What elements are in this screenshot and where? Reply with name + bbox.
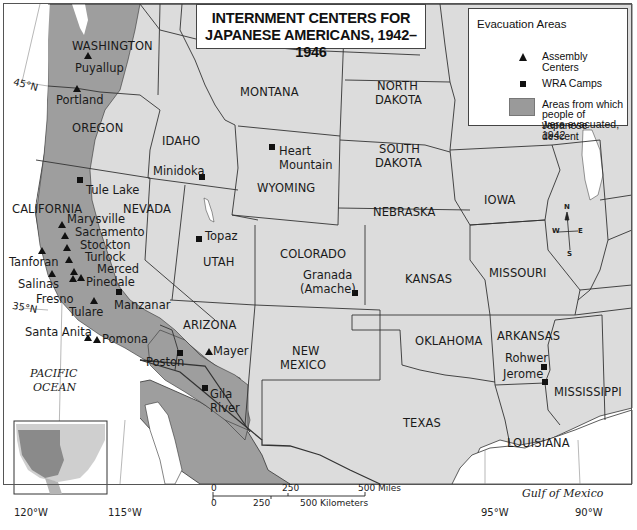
scale-miles-250: 250 [282,483,299,493]
label-merced: Merced [97,263,139,275]
square-icon [77,177,83,183]
state-nevada: NEVADA [123,203,171,215]
legend-area-line-3: were evacuated, 1942 [542,119,627,141]
state-arkansas: ARKANSAS [497,330,560,342]
scale-km-500: 500 Kilometers [300,498,368,508]
state-new-mexico-1: NEW [292,345,320,357]
label-gila-river-2: River [210,402,240,414]
label-gila-river-1: Gila [210,388,232,400]
label-fresno: Fresno [36,293,74,305]
label-portland: Portland [56,94,104,106]
title-line-2: JAPANESE AMERICANS, 1942–1946 [197,27,425,61]
label-heart-mountain-2: Mountain [279,159,333,171]
state-north-dakota-2: DAKOTA [375,94,422,106]
state-missouri: MISSOURI [489,267,547,279]
state-mississippi: MISSISSIPPI [554,386,622,398]
label-rohwer: Rohwer [505,352,548,364]
state-south-dakota-2: DAKOTA [375,157,422,169]
square-icon [520,81,526,87]
label-tanforan: Tanforan [9,256,59,268]
title-box: INTERNMENT CENTERS FOR JAPANESE AMERICAN… [196,4,426,49]
state-texas: TEXAS [403,417,441,429]
label-heart-mountain-1: Heart [279,145,311,157]
label-tulare: Tulare [69,306,103,318]
state-nebraska: NEBRASKA [373,206,435,218]
square-icon [116,289,122,295]
label-pinedale: Pinedale [86,276,135,288]
legend-assembly-centers: Assembly Centers [542,51,627,73]
label-salinas: Salinas [18,278,59,290]
state-wyoming: WYOMING [257,182,315,194]
compass-e: E [578,227,583,235]
scale-km-250: 250 [253,498,270,508]
label-tule-lake: Tule Lake [86,184,139,196]
label-pomona: Pomona [102,333,148,345]
label-pacific-2: OCEAN [33,382,76,394]
label-lon-95: 95°W [481,508,509,519]
scale-miles-0: 0 [211,483,217,493]
shaded-area-swatch [509,98,535,116]
label-sacramento: Sacramento [75,226,145,238]
state-colorado: COLORADO [280,248,346,260]
label-minidoka: Minidoka [153,165,204,177]
compass-w: W [552,227,560,235]
scale-km-0: 0 [211,498,217,508]
legend-heading: Evacuation Areas [477,18,567,30]
label-pacific-1: PACIFIC [30,368,78,380]
state-iowa: IOWA [484,194,515,206]
label-granada-1: Granada [303,269,352,281]
state-arizona: ARIZONA [183,319,236,331]
legend: Evacuation Areas Assembly Centers WRA Ca… [468,8,628,126]
inset-map [14,421,107,494]
label-lon-120: 120°W [14,508,48,519]
state-idaho: IDAHO [162,135,200,147]
scale-miles-500: 500 Miles [358,483,401,493]
label-manzanar: Manzanar [114,299,170,311]
label-gulf-of-mexico: Gulf of Mexico [522,488,603,500]
state-washington: WASHINGTON [72,40,153,52]
label-mayer: Mayer [213,345,249,357]
state-utah: UTAH [203,256,234,268]
label-lon-115: 115°W [108,508,142,519]
state-oregon: OREGON [72,122,123,134]
label-topaz: Topaz [205,230,238,242]
state-south-dakota-1: SOUTH [379,143,420,155]
legend-wra-camps: WRA Camps [542,78,602,89]
triangle-icon [519,53,527,61]
state-kansas: KANSAS [405,273,452,285]
square-icon [196,236,202,242]
state-montana: MONTANA [240,86,299,98]
label-poston: Poston [146,356,184,368]
label-jerome: Jerome [503,368,543,380]
compass-s: S [567,250,572,258]
square-icon [202,385,208,391]
label-santa-anita: Santa Anita [25,326,92,338]
label-puyallup: Puyallup [75,62,124,74]
state-north-dakota-1: NORTH [377,80,418,92]
state-oklahoma: OKLAHOMA [415,335,482,347]
compass-n: N [564,203,570,211]
label-granada-2: (Amache) [300,283,356,295]
state-louisiana: LOUISIANA [507,437,570,449]
label-lon-90: 90°W [575,508,603,519]
title-line-1: INTERNMENT CENTERS FOR [197,10,425,27]
square-icon [269,144,275,150]
label-marysville: Marysville [67,213,125,225]
state-new-mexico-2: MEXICO [280,359,326,371]
